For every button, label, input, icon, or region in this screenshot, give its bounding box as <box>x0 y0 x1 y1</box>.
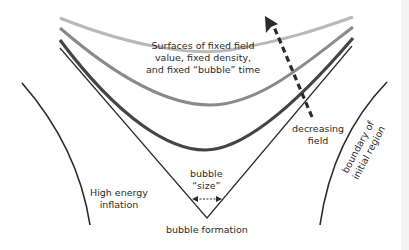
bubble-formation-label: bubble formation <box>166 224 248 236</box>
bubble-size-label: bubble “size” <box>190 168 223 192</box>
diagram-canvas <box>0 0 409 250</box>
page-edge <box>401 0 409 250</box>
decreasing-label-line1: decreasing <box>292 123 344 135</box>
decreasing-field-label: decreasing field <box>292 123 344 147</box>
surfaces-label-line2: value, fixed density, <box>146 52 260 64</box>
left-boundary-curve <box>22 83 90 225</box>
high-energy-line1: High energy <box>90 187 148 199</box>
bubble-size-line1: bubble <box>190 168 223 180</box>
high-energy-line2: inflation <box>90 199 148 211</box>
surfaces-label-line1: Surfaces of fixed field <box>146 40 260 52</box>
surfaces-label: Surfaces of fixed field value, fixed den… <box>146 40 260 76</box>
high-energy-label: High energy inflation <box>90 187 148 211</box>
decreasing-label-line2: field <box>292 135 344 147</box>
bubble-size-line2: “size” <box>190 180 223 192</box>
surfaces-label-line3: and fixed “bubble” time <box>146 64 260 76</box>
